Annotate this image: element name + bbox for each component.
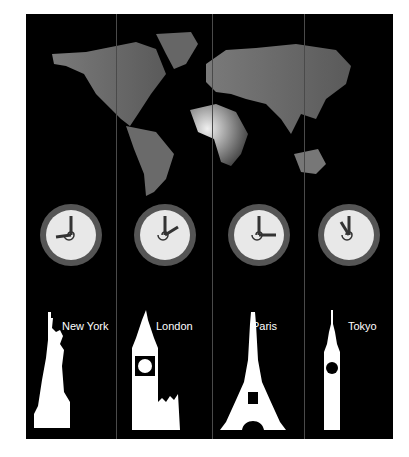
column-divider [116, 14, 117, 439]
clock-new-york [38, 202, 104, 268]
big-ben-icon [126, 310, 192, 430]
eiffel-tower-icon [214, 310, 292, 430]
column-divider [212, 14, 213, 439]
clock-tokyo [316, 202, 382, 268]
clock-london [132, 202, 198, 268]
world-clock-panel: New York London Paris Tokyo [26, 14, 393, 439]
clock-paris [226, 202, 292, 268]
column-divider [304, 14, 305, 439]
world-map [26, 14, 393, 204]
city-label-tokyo: Tokyo [348, 320, 377, 332]
tokyo-building-icon [320, 310, 344, 430]
statue-of-liberty-icon [30, 310, 76, 430]
